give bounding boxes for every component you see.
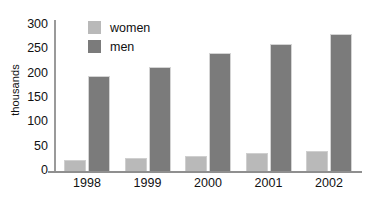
x-tick-label-2000: 2000 [178,176,238,190]
y-tick-label-0: 0 [22,164,48,176]
bar-group-2001 [246,20,292,171]
bar-women-1998[interactable] [64,160,86,171]
y-tick-label-150: 150 [22,91,48,103]
bar-group-2002 [306,20,352,171]
x-axis-line [48,171,362,173]
legend-swatch-women-icon [88,21,101,34]
legend-item-men[interactable]: men [88,37,150,56]
bar-women-2001[interactable] [246,153,268,171]
x-tick-label-2002: 2002 [299,176,359,190]
y-axis-tick-labels: 050100150200250300 [18,0,48,203]
bar-men-1998[interactable] [88,76,110,171]
bar-men-1999[interactable] [149,67,171,171]
y-tick-label-50: 50 [22,140,48,152]
bar-men-2001[interactable] [270,44,292,171]
x-tick-label-1998: 1998 [57,176,117,190]
bar-women-2002[interactable] [306,151,328,171]
bar-men-2000[interactable] [209,53,231,171]
bar-group-2000 [185,20,231,171]
y-tick-label-200: 200 [22,67,48,79]
x-tick-label-1999: 1999 [118,176,178,190]
y-tick-label-300: 300 [22,18,48,30]
bar-women-2000[interactable] [185,156,207,171]
x-tick-label-2001: 2001 [239,176,299,190]
legend-label-men: men [110,40,134,54]
legend-item-women[interactable]: women [88,18,150,37]
y-axis-line [54,20,56,172]
bar-men-2002[interactable] [330,34,352,171]
bar-chart: thousands 050100150200250300 19981999200… [0,0,368,203]
legend-label-women: women [110,21,150,35]
chart-legend: womenmen [88,18,150,56]
bar-women-1999[interactable] [125,158,147,171]
legend-swatch-men-icon [88,40,101,53]
y-tick-label-250: 250 [22,42,48,54]
y-tick-label-100: 100 [22,115,48,127]
